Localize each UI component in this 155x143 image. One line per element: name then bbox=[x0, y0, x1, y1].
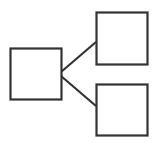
node-root bbox=[11, 49, 62, 100]
edge-root-to-child-bottom bbox=[61, 76, 96, 106]
node-child-top bbox=[97, 13, 148, 65]
node-child-bottom bbox=[97, 85, 148, 136]
tree-diagram bbox=[0, 0, 155, 143]
diagram-nodes bbox=[11, 13, 148, 136]
connector-lines bbox=[61, 42, 96, 106]
edge-root-to-child-top bbox=[61, 42, 96, 72]
